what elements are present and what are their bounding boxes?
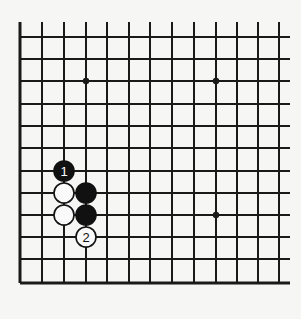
stone-disc xyxy=(76,205,96,225)
stone-disc xyxy=(54,183,74,203)
black-stone: 1 xyxy=(54,161,74,181)
star-point xyxy=(213,212,219,218)
white-stone xyxy=(54,183,74,203)
move-number-label: 1 xyxy=(60,164,67,179)
go-board: 12 xyxy=(0,0,301,319)
move-number-label: 2 xyxy=(82,230,89,245)
stones: 12 xyxy=(54,161,96,247)
stone-disc xyxy=(54,205,74,225)
white-stone xyxy=(54,205,74,225)
board-grid xyxy=(20,22,290,283)
stone-disc xyxy=(76,183,96,203)
white-stone: 2 xyxy=(76,227,96,247)
star-point xyxy=(213,78,219,84)
black-stone xyxy=(76,205,96,225)
star-point xyxy=(83,78,89,84)
black-stone xyxy=(76,183,96,203)
